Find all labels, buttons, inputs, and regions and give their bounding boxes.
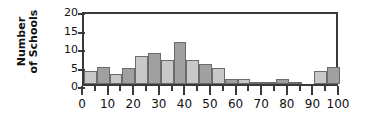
x-axis-tick-label: 10 — [100, 97, 115, 111]
histogram-bar — [289, 82, 302, 84]
x-axis-minor-tick-mark — [324, 86, 326, 91]
x-axis-minor-tick-mark — [273, 86, 275, 91]
y-axis-tick-label: 20 — [58, 6, 78, 19]
histogram-figure: Number of Schools 05101520 0102030405060… — [0, 0, 368, 122]
x-axis-tick-label: 100 — [327, 97, 350, 111]
plot-area — [82, 12, 338, 86]
histogram-bar — [84, 71, 97, 84]
histogram-bar — [276, 79, 289, 84]
x-axis-tick-mark — [183, 86, 185, 95]
y-axis-title-line2: of Schools — [28, 10, 40, 74]
histogram-bar — [122, 68, 135, 84]
y-axis-tick-label: 10 — [58, 43, 78, 56]
histogram-bar — [314, 71, 327, 84]
x-axis-tick-label: 40 — [177, 97, 192, 111]
x-axis-minor-tick-mark — [299, 86, 301, 91]
x-axis-tick-label: 20 — [126, 97, 141, 111]
x-axis-tick-mark — [286, 86, 288, 95]
y-axis-tick-mark — [78, 32, 85, 34]
x-axis-tick-label: 30 — [151, 97, 166, 111]
histogram-bar — [148, 53, 161, 84]
y-axis-tick-label: 5 — [58, 61, 78, 74]
x-axis-tick-label: 90 — [305, 97, 320, 111]
histogram-bar — [161, 60, 174, 84]
histogram-bar — [135, 56, 148, 84]
x-axis-minor-tick-mark — [119, 86, 121, 91]
y-axis-tick-label: 15 — [58, 24, 78, 37]
x-axis-tick-mark — [235, 86, 237, 95]
x-axis-minor-tick-mark — [145, 86, 147, 91]
y-axis-tick-label: 0 — [58, 80, 78, 93]
x-axis-tick-mark — [260, 86, 262, 95]
x-axis-tick-mark — [158, 86, 160, 95]
histogram-bar — [186, 60, 199, 84]
histogram-bar — [263, 82, 276, 84]
histogram-bar — [225, 79, 238, 84]
x-axis-tick-label: 0 — [78, 97, 86, 111]
x-axis-tick-mark — [209, 86, 211, 95]
histogram-bar — [212, 68, 225, 84]
x-axis-minor-tick-mark — [171, 86, 173, 91]
x-axis-minor-tick-mark — [222, 86, 224, 91]
x-axis-tick-mark — [107, 86, 109, 95]
x-axis-tick-label: 70 — [254, 97, 269, 111]
x-axis-minor-tick-mark — [247, 86, 249, 91]
histogram-bar — [174, 42, 187, 84]
y-axis-tick-mark — [78, 13, 85, 15]
y-axis-tick-labels: 05101520 — [56, 0, 78, 122]
x-axis-tick-mark — [132, 86, 134, 95]
y-axis-tick-mark — [78, 50, 85, 52]
x-axis-minor-tick-mark — [94, 86, 96, 91]
x-axis-tick-label: 50 — [202, 97, 217, 111]
histogram-bar — [250, 82, 263, 84]
histogram-bar — [199, 64, 212, 84]
bars-container — [84, 14, 336, 84]
x-axis: 0102030405060708090100 — [82, 86, 340, 122]
x-axis-tick-label: 80 — [279, 97, 294, 111]
x-axis-minor-tick-mark — [196, 86, 198, 91]
y-axis-tick-mark — [78, 69, 85, 71]
histogram-bar — [327, 67, 340, 84]
x-axis-tick-mark — [337, 86, 339, 95]
x-axis-tick-mark — [81, 86, 83, 95]
x-axis-tick-mark — [311, 86, 313, 95]
x-axis-tick-label: 60 — [228, 97, 243, 111]
y-axis-title: Number of Schools — [0, 0, 56, 84]
histogram-bar — [238, 79, 251, 84]
histogram-bar — [97, 67, 110, 84]
histogram-bar — [110, 74, 123, 84]
